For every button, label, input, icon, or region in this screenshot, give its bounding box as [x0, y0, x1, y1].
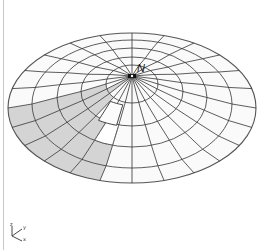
axis-y-line [12, 229, 22, 236]
dome-mesh-drawing[interactable] [0, 0, 257, 250]
apex-dot-icon [131, 75, 133, 77]
axis-label-y: y [23, 225, 26, 230]
axis-label-z: z [10, 222, 13, 227]
axis-label-x: x [23, 237, 26, 242]
3d-viewport[interactable]: N z y x [0, 0, 257, 250]
apex-label-n: N [137, 63, 145, 74]
axis-x-line [12, 236, 22, 241]
axis-triad-icon [0, 220, 40, 250]
